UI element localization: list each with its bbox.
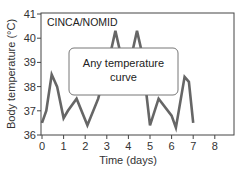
y-tick-label: 40 [24,32,36,44]
x-tick-label: 7 [190,140,196,152]
annotation-text-line-1: Any temperature [83,57,164,69]
y-axis-title: Body temperature (°C) [5,19,17,129]
y-tick-label: 37 [24,105,36,117]
x-tick-label: 6 [169,140,175,152]
x-tick-label: 3 [104,140,110,152]
x-tick-label: 8 [212,140,218,152]
x-tick-label: 0 [39,140,45,152]
x-tick-label: 5 [147,140,153,152]
panel-title: CINCA/NOMID [47,16,118,28]
x-axis-ticks: 012345678 [39,135,218,152]
y-tick-label: 36 [24,129,36,141]
x-tick-label: 1 [61,140,67,152]
y-tick-label: 39 [24,56,36,68]
y-tick-label: 41 [24,8,36,20]
annotation-text-line-2: curve [110,71,137,83]
x-tick-label: 4 [125,140,131,152]
chart: 363738394041 012345678 Any temperature c… [0,0,239,175]
x-tick-label: 2 [82,140,88,152]
y-axis-ticks: 363738394041 [24,8,41,141]
x-axis-title: Time (days) [99,154,157,166]
y-tick-label: 38 [24,81,36,93]
